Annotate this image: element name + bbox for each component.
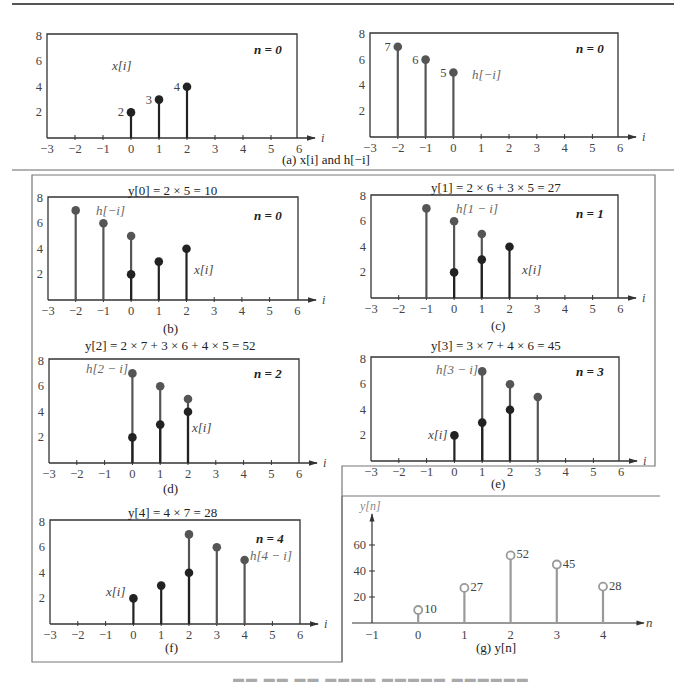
- svg-text:1: 1: [156, 304, 162, 318]
- svg-text:i: i: [323, 456, 327, 470]
- svg-text:2: 2: [185, 467, 191, 481]
- svg-text:i: i: [321, 131, 325, 145]
- panel-f-caption: (f): [165, 640, 178, 656]
- svg-text:8: 8: [36, 29, 42, 43]
- svg-text:20: 20: [354, 590, 367, 604]
- panel-a-right-seq-label: h[−i]: [472, 67, 501, 83]
- svg-text:−3: −3: [43, 628, 56, 642]
- svg-text:i: i: [322, 293, 326, 307]
- svg-text:6: 6: [38, 379, 44, 393]
- svg-text:4: 4: [239, 304, 246, 318]
- panel-d-h-label: h[2 − i]: [86, 361, 128, 377]
- svg-text:5: 5: [440, 66, 446, 80]
- svg-text:4: 4: [240, 142, 247, 156]
- svg-text:2: 2: [507, 465, 513, 479]
- svg-text:−1: −1: [420, 302, 433, 316]
- panel-g-ylabel: y[n]: [360, 499, 381, 514]
- svg-text:2: 2: [39, 591, 45, 605]
- panel-a-left-n-label: n = 0: [254, 42, 282, 58]
- svg-text:0: 0: [130, 628, 136, 642]
- svg-text:6: 6: [412, 53, 418, 67]
- svg-text:4: 4: [562, 302, 569, 316]
- svg-text:4: 4: [37, 242, 44, 256]
- panel-g-xlabel: n: [646, 615, 653, 631]
- svg-text:3: 3: [212, 142, 218, 156]
- panel-a-right-n-label: n = 0: [576, 41, 604, 57]
- svg-text:−1: −1: [419, 141, 432, 155]
- panel-c-n-label: n = 1: [576, 206, 604, 222]
- svg-text:8: 8: [37, 191, 43, 205]
- svg-text:2: 2: [360, 265, 366, 279]
- svg-text:8: 8: [360, 189, 366, 203]
- svg-text:6: 6: [360, 214, 366, 228]
- svg-text:1: 1: [157, 467, 163, 481]
- svg-text:−2: −2: [392, 465, 405, 479]
- panel-g-caption: (g) y[n]: [476, 640, 516, 656]
- svg-text:4: 4: [600, 628, 607, 642]
- panel-b-x-label: x[i]: [194, 262, 214, 278]
- panel-e-caption: (e): [491, 476, 505, 492]
- panel-f-h-label: h[4 − i]: [250, 548, 292, 564]
- svg-text:−1: −1: [98, 467, 111, 481]
- svg-text:4: 4: [174, 80, 181, 94]
- panel-b-n-label: n = 0: [254, 208, 282, 224]
- svg-text:4: 4: [38, 405, 45, 419]
- svg-text:5: 5: [268, 142, 274, 156]
- panel-d-n-label: n = 2: [254, 366, 282, 382]
- svg-text:2: 2: [360, 428, 366, 442]
- svg-text:−2: −2: [391, 141, 404, 155]
- svg-text:28: 28: [609, 579, 622, 593]
- svg-text:4: 4: [360, 240, 367, 254]
- svg-text:2: 2: [36, 105, 42, 119]
- svg-text:2: 2: [37, 267, 43, 281]
- panel-b-h-label: h[−i]: [96, 203, 125, 219]
- svg-text:40: 40: [354, 564, 367, 578]
- panel-f-title: y[4] = 4 × 7 = 28: [128, 505, 217, 521]
- svg-text:−2: −2: [71, 628, 84, 642]
- svg-text:0: 0: [451, 302, 457, 316]
- stem-plot-g: 204060−1012341027524528: [352, 514, 644, 642]
- panel-f-n-label: n = 4: [256, 531, 284, 547]
- svg-text:8: 8: [39, 515, 45, 529]
- svg-text:2: 2: [506, 141, 512, 155]
- svg-text:3: 3: [211, 304, 217, 318]
- svg-text:−2: −2: [68, 142, 81, 156]
- svg-text:−3: −3: [40, 142, 53, 156]
- svg-text:0: 0: [450, 141, 456, 155]
- svg-text:−3: −3: [41, 304, 54, 318]
- svg-text:5: 5: [589, 141, 595, 155]
- svg-text:i: i: [324, 617, 328, 631]
- svg-text:1: 1: [158, 628, 164, 642]
- svg-text:6: 6: [359, 53, 365, 67]
- panel-e-n-label: n = 3: [576, 364, 604, 380]
- svg-text:3: 3: [534, 141, 540, 155]
- svg-text:1: 1: [479, 302, 485, 316]
- panel-a-caption: (a) x[i] and h[−i]: [282, 152, 370, 168]
- svg-text:−1: −1: [365, 628, 378, 642]
- svg-text:7: 7: [385, 40, 391, 54]
- panel-e-x-label: x[i]: [428, 427, 448, 443]
- svg-text:−3: −3: [364, 465, 377, 479]
- svg-text:27: 27: [470, 580, 483, 594]
- svg-text:5: 5: [266, 304, 272, 318]
- svg-text:60: 60: [354, 538, 367, 552]
- svg-text:6: 6: [360, 377, 366, 391]
- svg-text:−3: −3: [364, 302, 377, 316]
- panel-c-h-label: h[1 − i]: [456, 201, 498, 217]
- svg-text:6: 6: [296, 467, 302, 481]
- panel-c-caption: (c): [491, 318, 505, 334]
- svg-text:0: 0: [128, 142, 134, 156]
- stem-plot-f: i−3−2−101234562468: [39, 515, 328, 642]
- svg-text:3: 3: [146, 93, 152, 107]
- svg-text:6: 6: [618, 465, 624, 479]
- svg-text:6: 6: [297, 628, 303, 642]
- svg-text:6: 6: [617, 141, 623, 155]
- svg-text:4: 4: [359, 78, 366, 92]
- svg-text:2: 2: [184, 142, 190, 156]
- svg-text:2: 2: [359, 104, 365, 118]
- svg-text:4: 4: [562, 465, 569, 479]
- svg-text:52: 52: [517, 547, 530, 561]
- figure-caption: ▬▬ ▬▬ ▬▬ ▬▬▬▬ ▬▬▬▬▬ ▬▬▬▬▬▬: [233, 672, 530, 684]
- svg-text:10: 10: [424, 602, 437, 616]
- svg-text:i: i: [642, 291, 646, 305]
